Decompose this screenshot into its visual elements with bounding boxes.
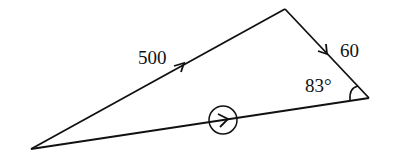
edge-500: [31, 9, 285, 149]
angle-arc-icon: [350, 86, 358, 100]
vector-triangle-diagram: 500 60 83°: [0, 0, 401, 153]
label-60: 60: [340, 40, 359, 61]
label-500: 500: [138, 47, 167, 68]
edge-resultant: [31, 98, 369, 149]
label-angle: 83°: [305, 75, 332, 96]
